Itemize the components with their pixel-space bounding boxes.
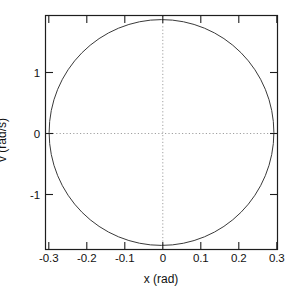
ytick-label-2: -1 [19,189,40,201]
plot-background [45,15,278,250]
xtick-label-5: 0.2 [231,252,247,264]
xtick-label-4: 0.1 [193,252,209,264]
y-axis-label: v (rad/s) [0,118,9,162]
x-axis-label: x (rad) [144,272,179,286]
phase-space-figure: -0.3 -0.2 -0.1 0 0.1 0.2 0.3 1 0 -1 x (r… [0,0,295,297]
xtick-label-6: 0.3 [269,252,285,264]
xtick-label-2: -0.1 [115,252,134,264]
xtick-label-3: 0 [160,252,166,264]
ytick-label-0: 1 [22,67,40,79]
xtick-label-1: -0.2 [77,252,96,264]
ytick-label-1: 0 [22,128,40,140]
xtick-label-0: -0.3 [39,252,58,264]
